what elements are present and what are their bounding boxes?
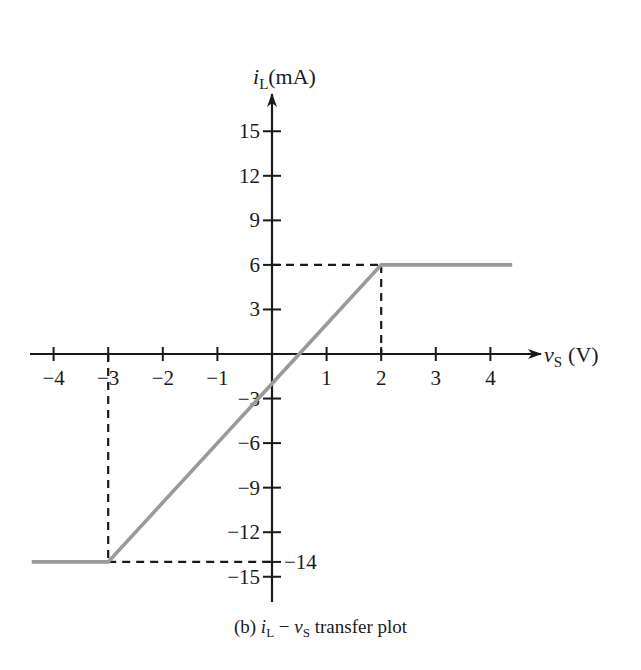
y-tick-label: 12 [239, 164, 260, 188]
y-tick-label: 9 [250, 208, 261, 232]
y-tick-label-extra: −14 [284, 550, 317, 574]
x-axis-label: vS(V) [544, 342, 599, 370]
x-tick-label: 1 [321, 366, 332, 390]
y-tick-label: 6 [250, 253, 261, 277]
y-tick-label: −6 [238, 431, 260, 455]
y-tick-label: −12 [227, 520, 260, 544]
axis-labels: iL(mA)vS(V) [253, 64, 599, 370]
x-tick-label: −3 [97, 366, 119, 390]
x-tick-label: 3 [431, 366, 442, 390]
y-tick-label: 15 [239, 119, 260, 143]
y-axis-label: iL(mA) [253, 64, 316, 92]
caption-suffix: transfer plot [315, 616, 407, 637]
y-tick-label: 3 [250, 297, 261, 321]
x-tick-label: −2 [152, 366, 174, 390]
axes [30, 94, 541, 602]
y-tick-label: −15 [227, 565, 260, 589]
transfer-plot: −4−3−2−112341512963−3−6−9−12−15−14 iL(mA… [0, 0, 641, 610]
x-tick-label: 2 [376, 366, 387, 390]
caption-vs: v [294, 616, 302, 637]
x-tick-label: 4 [485, 366, 496, 390]
x-tick-label: −1 [206, 366, 228, 390]
x-tick-label: −4 [42, 366, 65, 390]
figure-caption: (b) iL − vS transfer plot [0, 616, 641, 641]
y-tick-label: −9 [238, 476, 260, 500]
caption-prefix: (b) [234, 616, 256, 637]
